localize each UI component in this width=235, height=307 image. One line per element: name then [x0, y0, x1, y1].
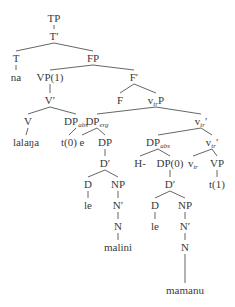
tree-node-f: F: [117, 94, 123, 106]
tree-edges: [0, 0, 235, 307]
tree-edge: [28, 107, 50, 114]
tree-node-dbar2: D′: [165, 178, 175, 190]
tree-node-t1: t(1): [209, 178, 225, 190]
tree-node-dp: DP: [98, 136, 112, 148]
tree-node-dbar1: D′: [100, 157, 110, 169]
tree-node-dpabs2: DPabs: [146, 136, 170, 152]
tree-node-le1: le: [84, 199, 92, 211]
tree-node-n2: N: [181, 241, 189, 253]
tree-node-na: na: [11, 71, 21, 83]
tree-node-d1: D: [84, 178, 92, 190]
tree-node-mamanu: mamanu: [166, 284, 204, 296]
tree-node-malini: malini: [104, 241, 132, 253]
tree-node-le2: le: [151, 220, 159, 232]
tree-node-h: H-: [134, 157, 146, 169]
tree-node-lalana: lalaŋa: [13, 136, 39, 148]
tree-node-vtrbar1: vtr′: [195, 115, 208, 131]
tree-node-dperg: DPerg: [85, 115, 108, 131]
tree-edge: [88, 170, 105, 177]
tree-node-dp0: DP(0): [157, 157, 184, 169]
tree-edge: [16, 43, 54, 51]
tree-node-vtrp: vtrP: [148, 94, 164, 110]
tree-node-vtr: vtr: [188, 157, 198, 173]
tree-edge: [50, 107, 76, 114]
tree-node-t: T: [13, 52, 20, 64]
tree-node-fbar: F′: [130, 71, 139, 83]
tree-node-nbar2: N′: [180, 220, 190, 232]
tree-node-np1: NP: [111, 178, 125, 190]
tree-edge: [170, 191, 185, 198]
tree-edge: [155, 191, 170, 198]
tree-node-vtrbar2: vtr′: [206, 136, 219, 152]
tree-edge: [26, 128, 28, 135]
tree-node-tbar: T′: [49, 30, 58, 42]
tree-node-e: e: [80, 136, 85, 148]
tree-edge: [93, 65, 134, 70]
tree-edge: [50, 65, 93, 70]
tree-node-tp: TP: [48, 12, 61, 24]
tree-node-nbar1: N′: [113, 199, 123, 211]
tree-edge: [134, 84, 156, 93]
tree-edge: [54, 43, 93, 51]
tree-node-vp1: VP(1): [37, 71, 64, 83]
tree-node-np2: NP: [178, 199, 192, 211]
tree-node-fp: FP: [87, 52, 99, 64]
tree-edge: [105, 170, 118, 177]
tree-node-v: V: [24, 115, 32, 127]
tree-node-n1: N: [114, 220, 122, 232]
tree-node-d2: D: [151, 199, 159, 211]
tree-node-vp: VP: [210, 157, 224, 169]
tree-node-dpabs1: DPabs: [64, 115, 88, 131]
tree-node-t0: t(0): [61, 136, 77, 148]
tree-edge: [120, 84, 134, 93]
tree-node-vbar: V′: [45, 94, 55, 106]
